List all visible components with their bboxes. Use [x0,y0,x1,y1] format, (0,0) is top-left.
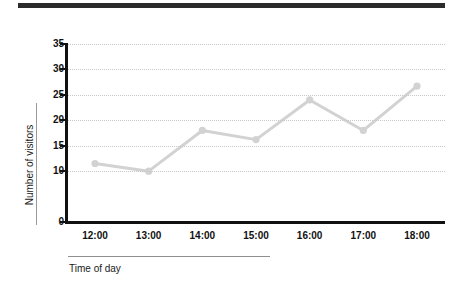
y-axis-tick-mark [60,145,66,147]
plot-area [68,44,445,222]
y-axis-tick-mark [60,170,66,172]
y-axis-tick-mark [60,119,66,121]
x-axis-tick-label: 15:00 [226,230,286,241]
top-divider-bar [18,3,445,8]
data-point-marker [360,127,367,134]
data-point-marker [91,160,98,167]
gridline [68,171,445,172]
data-point-marker [413,83,420,90]
y-axis-title-rule [36,103,37,225]
x-axis-title-rule [68,256,270,257]
x-axis-tick-label: 17:00 [333,230,393,241]
y-axis-tick-mark [60,221,66,223]
gridline [68,120,445,121]
x-axis-tick-label: 18:00 [387,230,447,241]
x-axis-tick-label: 13:00 [119,230,179,241]
line-chart-figure: Number of visitors 3530252015100 Time of… [0,0,465,284]
gridline [68,44,445,45]
y-axis-tick-mark [60,94,66,96]
gridline [68,146,445,147]
x-axis-tick-label: 12:00 [65,230,125,241]
gridline [68,95,445,96]
x-axis-tick-label: 16:00 [280,230,340,241]
y-axis-tick-mark [60,68,66,70]
gridline [68,69,445,70]
y-axis-tick-mark [60,43,66,45]
data-point-marker [306,96,313,103]
series-polyline [95,86,417,171]
data-series-line [68,44,445,222]
data-point-marker [252,136,259,143]
x-axis-title-label: Time of day [69,263,121,274]
data-point-marker [199,127,206,134]
x-axis-tick-label: 14:00 [172,230,232,241]
